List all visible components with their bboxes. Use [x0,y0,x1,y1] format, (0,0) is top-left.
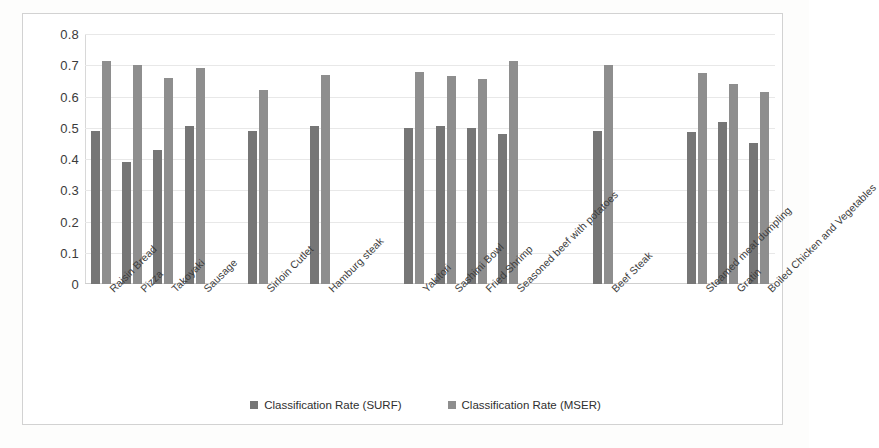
bar-surf[interactable] [310,126,319,284]
legend-entry-mser[interactable]: Classification Rate (MSER) [448,399,601,411]
chart-legend: Classification Rate (SURF) Classificatio… [45,399,806,411]
bar-mser[interactable] [604,65,613,284]
bar-surf[interactable] [718,122,727,285]
y-axis-tick-label: 0.3 [60,183,79,198]
bar-surf[interactable] [91,131,100,284]
bar-group [436,34,456,284]
legend-label-mser: Classification Rate (MSER) [462,399,601,411]
plot-area [85,34,775,284]
y-axis-tick-label: 0.6 [60,89,79,104]
y-axis-tick-label: 0.7 [60,58,79,73]
bar-group [467,34,487,284]
bar-mser[interactable] [164,78,173,284]
bar-group [185,34,205,284]
bar-surf[interactable] [467,128,476,284]
y-axis-tick-label: 0.8 [60,27,79,42]
bar-group [404,34,424,284]
bar-group [248,34,268,284]
x-axis-category-labels: Raisin BreadPizzaTakoyakiSausageSirloin … [85,286,785,396]
bar-surf[interactable] [687,132,696,284]
bar-mser[interactable] [321,75,330,284]
legend-swatch-mser-icon [448,401,456,409]
legend-entry-surf[interactable]: Classification Rate (SURF) [250,399,401,411]
bar-mser[interactable] [102,61,111,284]
bar-group [153,34,173,284]
bar-surf[interactable] [248,131,257,284]
bar-mser[interactable] [698,73,707,284]
bar-group [310,34,330,284]
bar-surf[interactable] [749,143,758,284]
y-axis-tick-label: 0 [72,277,79,292]
y-axis-tick-label: 0.2 [60,214,79,229]
bar-mser[interactable] [415,72,424,285]
y-axis-tick-label: 0.4 [60,152,79,167]
bar-mser[interactable] [760,92,769,284]
bar-group [718,34,738,284]
chart-frame: 0.80.70.60.50.40.30.20.10 Raisin BreadPi… [22,13,783,425]
y-axis-tick-label: 0.1 [60,245,79,260]
x-axis-category-label: Boiled Chicken and Vegetables [765,181,878,294]
legend-swatch-surf-icon [250,401,258,409]
bar-surf[interactable] [404,128,413,284]
bar-mser[interactable] [196,68,205,284]
bar-surf[interactable] [185,126,194,284]
bar-surf[interactable] [436,126,445,284]
legend-label-surf: Classification Rate (SURF) [264,399,401,411]
y-axis-tick-labels: 0.80.70.60.50.40.30.20.10 [45,34,83,284]
bar-group [687,34,707,284]
bar-surf[interactable] [153,150,162,284]
bar-group [122,34,142,284]
bar-mser[interactable] [447,76,456,284]
y-axis-tick-label: 0.5 [60,120,79,135]
bar-group [91,34,111,284]
bar-group [593,34,613,284]
bar-mser[interactable] [259,90,268,284]
